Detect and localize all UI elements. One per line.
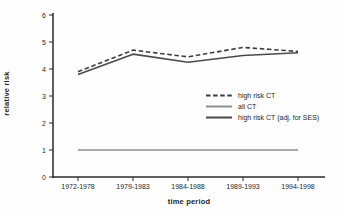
- legend-item: high risk CT: [206, 91, 319, 100]
- svg-text:2: 2: [42, 120, 46, 127]
- x-axis-title: time period: [53, 197, 325, 206]
- legend: high risk CT all CT high risk CT (adj. f…: [206, 91, 319, 122]
- svg-text:1989-1993: 1989-1993: [226, 183, 260, 190]
- legend-label: all CT: [238, 102, 256, 111]
- legend-line-sample-solid: [206, 115, 232, 120]
- svg-text:1: 1: [42, 147, 46, 154]
- svg-text:5: 5: [42, 39, 46, 46]
- legend-item: all CT: [206, 102, 319, 111]
- svg-text:1984-1988: 1984-1988: [171, 183, 205, 190]
- svg-text:6: 6: [42, 12, 46, 19]
- legend-label: high risk CT: [238, 91, 275, 100]
- legend-line-sample-gray: [206, 104, 232, 109]
- svg-text:0: 0: [42, 174, 46, 181]
- svg-text:1972-1978: 1972-1978: [61, 183, 95, 190]
- svg-text:3: 3: [42, 93, 46, 100]
- legend-item: high risk CT (adj. for SES): [206, 113, 319, 122]
- svg-text:4: 4: [42, 66, 46, 73]
- svg-text:1994-1998: 1994-1998: [281, 183, 315, 190]
- legend-label: high risk CT (adj. for SES): [238, 113, 319, 122]
- legend-line-sample-dashed: [206, 93, 232, 98]
- relative-risk-line-chart: 01234561972-19781979-19831984-19881989-1…: [0, 0, 340, 218]
- svg-text:1979-1983: 1979-1983: [116, 183, 150, 190]
- y-axis-title: relative risk: [2, 54, 11, 134]
